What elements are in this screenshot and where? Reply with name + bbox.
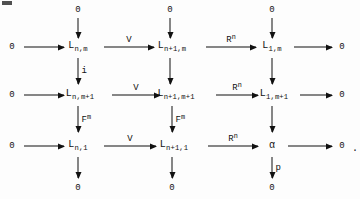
- row3-object-2: Ln+1,1: [160, 140, 188, 152]
- arrow-row1-to-row2-col1: i: [78, 58, 79, 84]
- row2-arrow-1: V: [112, 95, 160, 96]
- arrow-row3-to-bottom-col1: [78, 157, 79, 178]
- arrow-row3-to-bottom-col3: p: [272, 157, 273, 178]
- arrow-row3-to-bottom-col2: [172, 157, 173, 178]
- row2-object-2: Ln+1,m+1: [157, 89, 194, 101]
- object-subscript: n,m: [74, 45, 87, 53]
- row1-object-2: Ln+1,m: [158, 41, 186, 53]
- object-subscript: 1,m: [268, 45, 281, 53]
- row3-arrow-0: [24, 146, 64, 147]
- row3-right-zero: 0: [339, 142, 345, 151]
- arrow-row1-to-row2-col3: [272, 58, 273, 84]
- arrow-label: Fm: [82, 113, 92, 125]
- arrow-row2-to-row3-col2: Fm: [172, 106, 173, 132]
- row2-arrow-0: [24, 95, 64, 96]
- object-subscript: n+1,m: [164, 45, 186, 53]
- top-zero-col3: 0: [269, 6, 275, 15]
- arrow-label: i: [82, 66, 87, 76]
- row1-object-3: L1,m: [262, 41, 281, 53]
- row2-arrow-2: Rn: [216, 95, 258, 96]
- row1-arrow-3: [294, 47, 332, 48]
- arrow-row2-to-row3-col3: [272, 106, 273, 132]
- bottom-zero-col1: 0: [75, 184, 81, 193]
- row1-arrow-1: V: [104, 47, 154, 48]
- arrow-label: Rn: [226, 32, 236, 44]
- object-subscript: n,m+1: [72, 93, 94, 101]
- arrow-label: Fm: [176, 113, 186, 125]
- row3-arrow-2: Rn: [208, 146, 258, 147]
- row2-object-3: L1,m+1: [260, 89, 288, 101]
- arrow-label: V: [127, 134, 132, 144]
- row2-arrow-3: [300, 95, 332, 96]
- object-subscript: n,1: [74, 144, 87, 152]
- row2-left-zero: 0: [9, 91, 15, 100]
- arrow-label: Rn: [228, 131, 238, 143]
- row3-arrow-1: V: [104, 146, 156, 147]
- arrow-top-to-row1-col1: [78, 18, 79, 38]
- row1-arrow-2: Rn: [206, 47, 256, 48]
- arrow-label: V: [126, 35, 131, 45]
- row1-arrow-0: [24, 47, 64, 48]
- object-subscript: n+1,m+1: [164, 93, 195, 101]
- row1-left-zero: 0: [9, 43, 15, 52]
- row3-arrow-3: [288, 146, 332, 147]
- row3-left-zero: 0: [9, 142, 15, 151]
- row1-object-1: Ln,m: [68, 41, 87, 53]
- commutative-diagram: 0 0 0 0 Ln,m V Ln+1,m Rn L1,m 0 i 0 Ln,m…: [0, 0, 360, 199]
- scan-artifact: [2, 1, 12, 5]
- row2-object-1: Ln,m+1: [66, 89, 94, 101]
- arrow-top-to-row1-col3: [272, 18, 273, 38]
- arrow-label: V: [133, 83, 138, 93]
- trailing-period: .: [352, 143, 358, 154]
- bottom-zero-col2: 0: [169, 184, 175, 193]
- arrow-label: p: [276, 163, 281, 173]
- row3-object-1: Ln,1: [68, 140, 87, 152]
- object-subscript: 1,m+1: [266, 93, 288, 101]
- row2-right-zero: 0: [339, 91, 345, 100]
- top-zero-col1: 0: [75, 6, 81, 15]
- row3-object-3: α: [269, 141, 275, 151]
- object-base: α: [269, 140, 275, 151]
- bottom-zero-col3: 0: [269, 184, 275, 193]
- arrow-label: Rn: [232, 80, 242, 92]
- arrow-top-to-row1-col2: [170, 18, 171, 38]
- arrow-row2-to-row3-col1: Fm: [78, 106, 79, 132]
- top-zero-col2: 0: [167, 6, 173, 15]
- object-subscript: n+1,1: [166, 144, 188, 152]
- arrow-row1-to-row2-col2: [170, 58, 171, 84]
- row1-right-zero: 0: [339, 43, 345, 52]
